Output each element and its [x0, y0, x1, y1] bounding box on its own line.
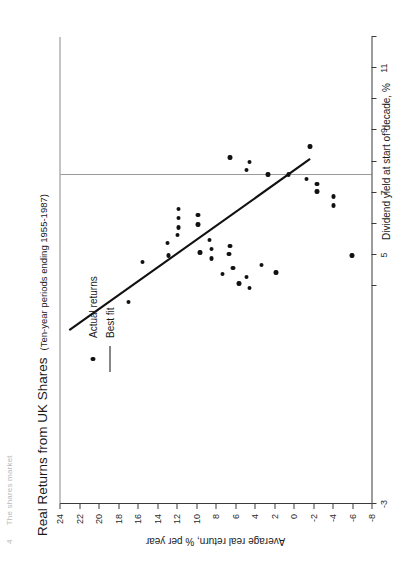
y-axis-tick [176, 504, 177, 509]
data-point [286, 172, 290, 176]
figure-page: 4The shares market Real Returns from UK … [0, 0, 405, 562]
chart-title: Real Returns from UK Shares(Ten-year per… [34, 194, 49, 536]
y-axis-tick [274, 504, 275, 509]
y-axis-tick [215, 504, 216, 509]
y-axis-tick [157, 504, 158, 509]
x-axis-tick [371, 254, 376, 255]
data-point [247, 160, 251, 164]
y-axis-tick [118, 504, 119, 509]
x-axis-title: Dividend yield at start of decade, % [380, 83, 391, 240]
data-point [176, 207, 180, 211]
data-point [195, 222, 199, 226]
y-axis-tick [313, 504, 314, 509]
data-point [314, 189, 318, 193]
x-axis-tick [371, 98, 376, 99]
x-axis-tick-label: -3 [378, 500, 388, 508]
chart-title-main: Real Returns from UK Shares [34, 357, 49, 536]
plot-frame [59, 37, 371, 504]
x-axis-tick [371, 36, 376, 37]
y-axis-tick [196, 504, 197, 509]
y-axis-tick-label: -8 [366, 514, 376, 522]
y-axis-tick-label: 14 [152, 514, 162, 524]
data-point [331, 194, 335, 198]
y-axis-tick [98, 504, 99, 509]
x-axis-tick [371, 285, 376, 286]
y-axis-tick [371, 504, 372, 509]
y-axis-tick-label: 0 [288, 514, 298, 519]
data-point [307, 144, 311, 148]
rotated-figure: 4The shares market Real Returns from UK … [0, 0, 405, 562]
running-head-text: The shares market [4, 455, 13, 525]
y-axis-title-text: Average real return, % per year [145, 536, 284, 547]
y-axis-tick-label: 24 [54, 514, 64, 524]
data-point [226, 252, 230, 256]
data-point [195, 213, 199, 217]
data-point [176, 216, 180, 220]
data-point [166, 253, 170, 257]
legend-dot-icon [90, 342, 94, 376]
y-axis-tick-label: 2 [269, 514, 279, 519]
x-axis-tick-label: 11 [378, 63, 388, 72]
y-axis-tick [235, 504, 236, 509]
x-axis-tick [371, 192, 376, 193]
legend-item-actual-returns: Actual returns [84, 276, 101, 376]
plot-canvas [60, 37, 371, 503]
y-axis-tick-label: 20 [93, 514, 103, 524]
y-axis-tick [254, 504, 255, 509]
y-axis-tick [332, 504, 333, 509]
data-point [140, 260, 144, 264]
data-point [314, 182, 318, 186]
x-axis-tick-label: 5 [378, 252, 388, 257]
data-point [259, 263, 263, 267]
y-axis-tick-label: 8 [210, 514, 220, 519]
y-axis-tick [59, 504, 60, 509]
x-axis-tick [371, 67, 376, 68]
data-point [176, 225, 180, 229]
chart-subtitle: (Ten-year periods ending 1955-1987) [37, 194, 48, 350]
x-axis-tick [371, 129, 376, 130]
y-axis-tick-label: 10 [191, 514, 201, 524]
data-point [227, 244, 231, 248]
y-axis-tick-label: -4 [327, 514, 337, 522]
x-axis-tick [371, 223, 376, 224]
data-point [349, 253, 353, 257]
data-point [197, 250, 201, 254]
y-axis-tick-label: 12 [171, 514, 181, 524]
best-fit-line [60, 37, 371, 503]
legend-label-actual-returns: Actual returns [87, 276, 98, 342]
y-axis-tick-label: 4 [249, 514, 259, 519]
legend-line-icon [109, 342, 111, 376]
y-axis-tick-label: -6 [347, 514, 357, 522]
y-axis-tick [137, 504, 138, 509]
legend-label-best-fit: Best fit [104, 307, 115, 342]
data-point [209, 256, 213, 260]
data-point [265, 172, 269, 176]
data-point [331, 203, 335, 207]
page-running-head: 4The shares market [4, 455, 13, 544]
chart-legend: Actual returns Best fit [84, 276, 118, 376]
data-point [244, 168, 248, 172]
x-axis-tick [371, 161, 376, 162]
y-axis-tick-label: 6 [230, 514, 240, 519]
y-axis-tick-label: 16 [132, 514, 142, 524]
y-axis-title: Average real return, % per year [59, 534, 371, 548]
y-axis-tick [79, 504, 80, 509]
page-folio: 4 [4, 539, 13, 544]
y-axis-tick-label: 18 [113, 514, 123, 524]
data-point [236, 281, 240, 285]
data-point [230, 266, 234, 270]
y-axis-tick-label: 22 [74, 514, 84, 524]
data-point [207, 238, 211, 242]
y-axis-tick [293, 504, 294, 509]
y-axis-tick-label: -2 [308, 514, 318, 522]
data-point [273, 270, 277, 274]
y-axis-tick [352, 504, 353, 509]
x-axis-line: -357911 [371, 37, 372, 504]
legend-item-best-fit: Best fit [101, 276, 118, 376]
data-point [227, 155, 231, 159]
